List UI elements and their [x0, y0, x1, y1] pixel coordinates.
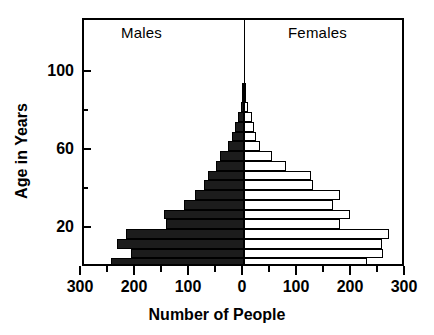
plot-area [82, 18, 404, 266]
bar-male-20-24 [166, 219, 244, 229]
x-tick-minor [106, 266, 108, 272]
bar-female-45-49 [244, 171, 311, 181]
x-axis-title: Number of People [0, 306, 434, 324]
x-tick-major [403, 266, 405, 275]
bar-male-15-19 [126, 229, 244, 239]
x-tick-major [241, 266, 243, 275]
bar-female-0-4 [244, 258, 367, 266]
bar-male-0-4 [111, 258, 244, 266]
bar-male-35-39 [195, 190, 244, 200]
bar-female-25-29 [244, 210, 350, 220]
panel-label-females: Females [288, 24, 347, 41]
y-tick-major [82, 70, 91, 72]
bar-female-30-34 [244, 200, 333, 210]
x-tick-label: 0 [238, 278, 247, 296]
bar-female-65-69 [244, 132, 256, 142]
x-tick-label: 100 [283, 278, 310, 296]
x-tick-major [349, 266, 351, 275]
bar-female-50-54 [244, 161, 286, 171]
bar-female-55-59 [244, 151, 272, 161]
bar-male-30-34 [184, 200, 244, 210]
bar-female-20-24 [244, 219, 340, 229]
x-tick-major [295, 266, 297, 275]
bar-female-15-19 [244, 229, 389, 239]
bar-female-70-74 [244, 122, 254, 132]
x-tick-label: 300 [391, 278, 418, 296]
x-tick-minor [376, 266, 378, 272]
bar-male-70-74 [235, 122, 244, 132]
bar-male-45-49 [208, 171, 244, 181]
bar-female-5-9 [244, 249, 383, 259]
y-tick-label: 100 [4, 62, 74, 80]
x-tick-minor [322, 266, 324, 272]
bar-female-10-14 [244, 239, 382, 249]
bar-male-25-29 [164, 210, 244, 220]
bar-female-40-44 [244, 180, 313, 190]
bar-male-65-69 [232, 132, 244, 142]
bar-female-85-89 [244, 93, 246, 103]
x-tick-minor [268, 266, 270, 272]
y-tick-minor [82, 109, 88, 111]
x-tick-major [133, 266, 135, 275]
panel-label-males: Males [121, 24, 162, 41]
x-tick-label: 100 [175, 278, 202, 296]
y-tick-major [82, 148, 91, 150]
x-tick-major [79, 266, 81, 275]
bar-female-75-79 [244, 112, 252, 122]
bar-male-10-14 [117, 239, 244, 249]
bar-female-80-84 [244, 102, 248, 112]
bar-male-50-54 [216, 161, 244, 171]
x-tick-minor [214, 266, 216, 272]
x-tick-label: 200 [121, 278, 148, 296]
y-tick-minor [82, 187, 88, 189]
x-tick-minor [160, 266, 162, 272]
population-pyramid-figure: Males Females 3002001000100200300 206010… [0, 0, 434, 335]
bar-male-60-64 [228, 141, 244, 151]
x-tick-major [187, 266, 189, 275]
bar-female-90-94 [244, 83, 246, 93]
x-tick-label: 200 [337, 278, 364, 296]
bar-male-5-9 [131, 249, 244, 259]
bar-male-55-59 [220, 151, 244, 161]
bar-female-35-39 [244, 190, 340, 200]
y-axis-title: Age in Years [13, 81, 31, 221]
x-tick-label: 300 [67, 278, 94, 296]
y-tick-major [82, 226, 91, 228]
bar-female-60-64 [244, 141, 260, 151]
bar-male-40-44 [204, 180, 244, 190]
